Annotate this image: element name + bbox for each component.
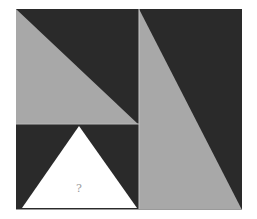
top-left-panel (16, 9, 139, 124)
right-panel (139, 9, 242, 210)
bottom-left-panel: ? (16, 124, 139, 210)
question-mark: ? (76, 182, 82, 195)
puzzle-figure: ? (0, 0, 257, 219)
